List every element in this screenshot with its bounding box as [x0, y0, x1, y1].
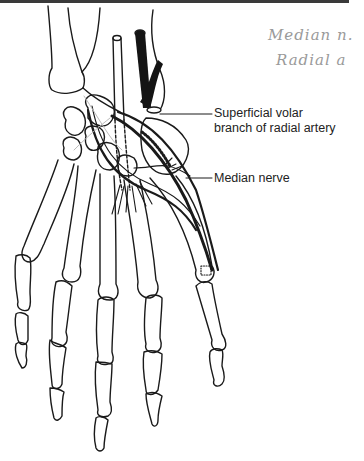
nerve-label: Median nerve [214, 171, 290, 186]
metacarpal-bones [22, 160, 214, 300]
thumb-phalanges [196, 282, 226, 386]
artery-label: Superficial volar branch of radial arter… [214, 106, 336, 136]
little-finger-phalanges [15, 255, 31, 368]
middle-finger-phalanges [95, 297, 115, 451]
index-finger-phalanges [143, 295, 162, 426]
ring-finger-phalanges [49, 281, 72, 420]
radial-artery [88, 30, 218, 275]
artery-label-line2: branch of radial artery [214, 121, 336, 136]
hand-anatomy-illustration [0, 0, 364, 461]
handwritten-note-median: Median n. [268, 26, 353, 44]
handwritten-note-radial: Radial a [276, 51, 346, 69]
artery-label-line1: Superficial volar [214, 106, 336, 121]
